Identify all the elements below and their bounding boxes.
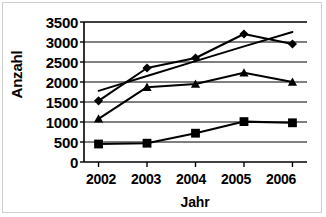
series-triangle-marker: [94, 114, 103, 122]
axis-lines: [80, 22, 307, 162]
series-square-marker: [94, 140, 103, 149]
series-diamond: [94, 29, 297, 105]
plot-area: [0, 0, 326, 217]
series-diamond-marker: [239, 29, 248, 38]
chart-container: Anzahl Jahr 3500 3000 2500 2000 1500 100…: [0, 0, 326, 217]
series-square-marker: [240, 117, 249, 126]
series-square-marker: [288, 118, 297, 127]
series-triangle-marker: [239, 68, 248, 76]
data-series-layer: [94, 29, 297, 148]
series-triangle: [94, 68, 297, 122]
series-square-marker: [191, 129, 200, 138]
series-diamond-marker: [288, 39, 297, 48]
series-diamond-line: [99, 34, 293, 101]
series-square-marker: [143, 139, 152, 148]
